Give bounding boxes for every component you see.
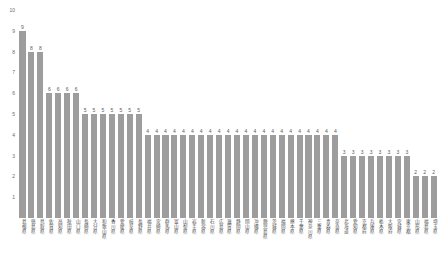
bar-value-label: 4 (307, 129, 310, 134)
bar-value-label: 4 (271, 129, 274, 134)
x-tick-label: 徳島県 (29, 219, 34, 234)
bar-value-label: 5 (137, 108, 140, 113)
bar (171, 135, 177, 218)
bar-value-label: 6 (48, 87, 51, 92)
bar-slot: 6 (54, 10, 63, 218)
bar-value-label: 5 (102, 108, 105, 113)
x-tick: 鳥取県 (36, 219, 45, 234)
bar-value-label: 9 (21, 25, 24, 30)
x-tick: 三重県 (313, 219, 322, 234)
x-tick: 香川県 (107, 219, 116, 234)
x-tick: 秋田県 (63, 219, 72, 234)
bar (19, 31, 25, 218)
bar (136, 114, 142, 218)
bar (234, 135, 240, 218)
bar-value-label: 4 (164, 129, 167, 134)
x-tick: 滋賀県 (224, 219, 233, 234)
bar-slot: 2 (411, 10, 420, 218)
x-tick-label: 福岡県 (279, 219, 284, 234)
x-tick: 茨城県 (268, 219, 277, 234)
bar-slot: 4 (233, 10, 242, 218)
x-tick-label: 京都府 (360, 219, 365, 234)
bar (323, 135, 329, 218)
bar-slot: 4 (250, 10, 259, 218)
bar (252, 135, 258, 218)
x-tick-label: 長野県 (136, 219, 141, 234)
bar-value-label: 4 (289, 129, 292, 134)
x-tick: 徳島県 (27, 219, 36, 234)
x-tick: 宮城県 (393, 219, 402, 234)
bar-slot: 4 (179, 10, 188, 218)
bar (180, 135, 186, 218)
bar (207, 135, 213, 218)
bar-value-label: 4 (200, 129, 203, 134)
x-tick-label: 鹿児島県 (261, 219, 266, 239)
bar (270, 135, 276, 218)
bar-slot: 3 (393, 10, 402, 218)
bar-value-label: 4 (182, 129, 185, 134)
x-tick-label: 千葉県 (297, 219, 302, 234)
x-tick: 島根県 (18, 219, 27, 234)
bar-value-label: 4 (173, 129, 176, 134)
bar (28, 52, 34, 218)
x-tick: 福島県 (420, 219, 429, 234)
bar-slot: 4 (152, 10, 161, 218)
x-tick-label: 滋賀県 (226, 219, 231, 234)
x-tick: 京都府 (358, 219, 367, 234)
x-tick-label: 熊本県 (288, 219, 293, 234)
bar-value-label: 4 (209, 129, 212, 134)
bar-slot: 9 (18, 10, 27, 218)
y-tick-label: 9 (12, 28, 15, 33)
bar-value-label: 2 (423, 170, 426, 175)
x-tick-label: 沖縄県 (252, 219, 257, 234)
x-tick-label: 福島県 (422, 219, 427, 234)
x-tick: 愛知県 (349, 219, 358, 234)
x-tick-label: 宮城県 (395, 219, 400, 234)
bar-value-label: 4 (280, 129, 283, 134)
bar (189, 135, 195, 218)
x-tick: 大分県 (90, 219, 99, 234)
x-tick: 佐賀県 (45, 219, 54, 234)
bar (350, 156, 356, 218)
bar (422, 176, 428, 218)
y-tick-label: 7 (12, 70, 15, 75)
bar-slot: 6 (72, 10, 81, 218)
x-tick: 長崎県 (81, 219, 90, 234)
bar-slot: 4 (161, 10, 170, 218)
x-tick-label: 愛媛県 (118, 219, 123, 234)
bar-value-label: 4 (298, 129, 301, 134)
x-tick: 宮崎県 (152, 219, 161, 234)
x-tick-label: 愛知県 (351, 219, 356, 234)
bar-value-label: 8 (30, 46, 33, 51)
bar-slot: 4 (277, 10, 286, 218)
x-axis: 島根県徳島県鳥取県佐賀県高知県秋田県山口県長崎県大分県和歌山県香川県愛媛県岐阜県… (18, 219, 438, 265)
bar-slot: 3 (340, 10, 349, 218)
bar-value-label: 4 (227, 129, 230, 134)
x-tick: 山梨県 (179, 219, 188, 234)
x-tick-label: 石川県 (208, 219, 213, 234)
bar-value-label: 5 (84, 108, 87, 113)
x-tick-label: 和歌山県 (101, 219, 106, 239)
x-tick: 岡山県 (241, 219, 250, 234)
bar-slot: 4 (197, 10, 206, 218)
y-tick-label: 4 (12, 132, 15, 137)
x-tick: 長野県 (134, 219, 143, 234)
bar (100, 114, 106, 218)
bar-value-label: 6 (75, 87, 78, 92)
x-tick: 栃木県 (376, 219, 385, 234)
bar (91, 114, 97, 218)
bar-slot: 4 (295, 10, 304, 218)
bar (305, 135, 311, 218)
plot-area: 9886666555555544444444444444444444443333… (18, 10, 438, 218)
x-tick: 熊本県 (286, 219, 295, 234)
x-tick: 群馬県 (161, 219, 170, 234)
bar-value-label: 4 (262, 129, 265, 134)
bar (55, 93, 61, 218)
x-tick-label: 長崎県 (83, 219, 88, 234)
bar (395, 156, 401, 218)
x-tick: 富山県 (170, 219, 179, 234)
x-tick: 高知県 (54, 219, 63, 234)
bar-slot: 6 (45, 10, 54, 218)
x-tick-label: 宮崎県 (154, 219, 159, 234)
x-tick-label: 島根県 (20, 219, 25, 234)
